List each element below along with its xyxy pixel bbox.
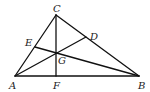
point-label-d: D (89, 31, 98, 42)
point-label-f: F (52, 80, 61, 91)
geometry-diagram: CAFBEDG (0, 0, 150, 92)
point-label-e: E (24, 37, 33, 48)
point-label-g: G (58, 55, 66, 66)
segment-bc (56, 15, 139, 76)
triangle-figure: CAFBEDG (0, 0, 150, 92)
point-label-a: A (8, 80, 16, 91)
point-label-b: B (137, 80, 145, 91)
segment-ca (15, 15, 56, 76)
segment-be (35, 47, 139, 76)
point-label-c: C (53, 3, 61, 14)
